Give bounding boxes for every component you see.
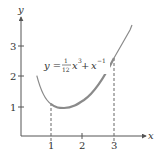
y-tick-1: 1 (10, 102, 16, 113)
x-tick-3: 3 (111, 140, 117, 149)
function-label: y = 1 12 x 3 + x −1 (42, 57, 110, 74)
svg-text:1: 1 (64, 57, 68, 64)
y-ticks: 1 2 3 (10, 41, 24, 113)
svg-text:12: 12 (62, 66, 70, 73)
svg-text:+: + (81, 60, 89, 71)
y-tick-3: 3 (10, 41, 16, 52)
x-ticks: 1 2 3 (48, 133, 117, 149)
y-axis-label: y (17, 4, 24, 15)
chart: y x 1 2 3 1 2 3 y = 1 12 x 3 + x −1 (0, 0, 162, 149)
x-tick-1: 1 (48, 140, 54, 149)
x-tick-2: 2 (79, 140, 85, 149)
x-axis-label: x (148, 130, 154, 141)
svg-text:y =: y = (43, 60, 61, 71)
svg-text:−1: −1 (97, 57, 106, 64)
y-tick-2: 2 (10, 71, 16, 82)
